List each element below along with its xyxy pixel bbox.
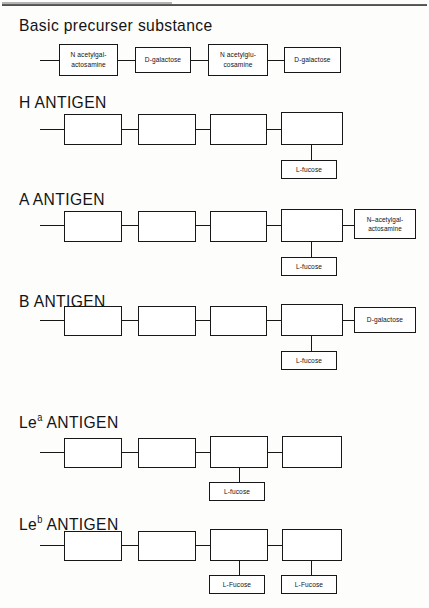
chain-box-1-h (64, 114, 122, 145)
chain-box-4-basic: D-galactose (284, 47, 341, 73)
chain-box-2-b (138, 306, 196, 336)
chain-box-3-leb (210, 529, 268, 561)
chain-box-1-leb (64, 531, 122, 561)
chain-box-4-b (281, 304, 343, 336)
branch-box-b-galactose-label: D-galactose (367, 315, 403, 325)
lead-line-basic (40, 60, 59, 61)
chain-box-3-lea (210, 436, 268, 468)
chain-box-1-basic: N acetylgal- actosamine (59, 44, 118, 76)
branch-connector-b-galactose (343, 320, 354, 321)
connector-3-4-lea (268, 452, 282, 453)
branch-connector-lea-fucose (239, 468, 240, 482)
heading-a-antigen: A ANTIGEN (19, 190, 105, 210)
chain-box-4-a (281, 209, 343, 242)
branch-box-leb-fucose-1-label: L-Fucose (223, 580, 251, 590)
heading-basic-precursor: Basic precurser substance (19, 16, 213, 36)
connector-3-4-h (267, 129, 281, 130)
connector-2-3-basic (191, 60, 208, 61)
branch-box-b-fucose-label: L-fucose (296, 356, 322, 366)
branch-box-lea-fucose: L-fucose (209, 482, 265, 501)
chain-box-2-basic: D-galactose (135, 47, 191, 73)
branch-box-a-fucose: L-fucose (281, 257, 337, 276)
chain-box-2-basic-label: D-galactose (145, 55, 181, 65)
chain-box-3-a (210, 211, 267, 242)
scan-artifact-line (2, 4, 427, 6)
connector-1-2-basic (118, 60, 135, 61)
lead-line-h (40, 129, 64, 130)
branch-box-h-fucose: L-fucose (281, 160, 337, 179)
lead-line-lea (40, 452, 64, 453)
chain-box-1-b (64, 306, 122, 336)
connector-2-3-leb (196, 545, 210, 546)
chain-box-1-basic-label: N acetylgal- actosamine (70, 50, 106, 69)
branch-connector-a-fucose (311, 242, 312, 257)
branch-box-h-fucose-label: L-fucose (296, 165, 322, 175)
chain-box-4-h (281, 112, 343, 145)
branch-box-leb-fucose-1: L-Fucose (209, 575, 265, 594)
branch-box-leb-fucose-2-label: L-Fucose (295, 580, 323, 590)
branch-connector-a-galnac (343, 225, 354, 226)
diagram-page: Basic precurser substance N acetylgal- a… (0, 0, 429, 608)
connector-2-3-b (196, 320, 210, 321)
chain-box-1-lea (64, 438, 122, 468)
connector-1-2-a (122, 225, 138, 226)
chain-box-1-a (64, 211, 122, 242)
chain-box-3-h (210, 114, 267, 145)
branch-box-a-fucose-label: L-fucose (296, 262, 322, 272)
connector-1-2-b (122, 320, 138, 321)
connector-2-3-h (196, 129, 210, 130)
branch-box-lea-fucose-label: L-fucose (224, 487, 250, 497)
connector-3-4-leb (268, 545, 282, 546)
connector-3-4-basic (268, 60, 284, 61)
heading-lea-prefix: Le (19, 413, 37, 432)
heading-lea-antigen: Lea ANTIGEN (19, 413, 119, 433)
branch-box-b-fucose: L-fucose (281, 351, 337, 370)
connector-2-3-a (196, 225, 210, 226)
connector-3-4-a (267, 225, 281, 226)
scan-artifact-line-secondary (2, 2, 172, 4)
branch-box-leb-fucose-2: L-Fucose (281, 575, 337, 594)
chain-box-2-h (138, 114, 196, 145)
chain-box-4-lea (282, 436, 342, 468)
connector-1-2-leb (122, 545, 138, 546)
branch-connector-b-fucose (311, 336, 312, 351)
connector-3-4-b (267, 320, 281, 321)
lead-line-leb (40, 545, 64, 546)
branch-box-a-galnac-label: N–acetylgal- actosamine (367, 215, 404, 234)
chain-box-3-basic-label: N acetylglu- cosamine (220, 50, 256, 69)
connector-1-2-lea (122, 452, 138, 453)
connector-1-2-h (122, 129, 138, 130)
chain-box-4-basic-label: D-galactose (294, 55, 330, 65)
lead-line-b (40, 320, 64, 321)
branch-box-b-galactose: D-galactose (354, 307, 416, 333)
chain-box-2-lea (138, 438, 196, 468)
branch-connector-leb-fucose-2 (311, 561, 312, 575)
chain-box-3-b (210, 306, 267, 336)
heading-h-antigen: H ANTIGEN (19, 93, 107, 113)
branch-connector-h-fucose (311, 145, 312, 160)
chain-box-2-a (138, 211, 196, 242)
lead-line-a (40, 225, 64, 226)
chain-box-4-leb (282, 529, 342, 561)
heading-lea-suffix: ANTIGEN (43, 413, 119, 432)
heading-leb-prefix: Le (19, 515, 37, 534)
branch-box-a-galnac: N–acetylgal- actosamine (354, 209, 416, 239)
chain-box-3-basic: N acetylglu- cosamine (208, 44, 268, 76)
branch-connector-leb-fucose-1 (239, 561, 240, 575)
chain-box-2-leb (138, 531, 196, 561)
connector-2-3-lea (196, 452, 210, 453)
